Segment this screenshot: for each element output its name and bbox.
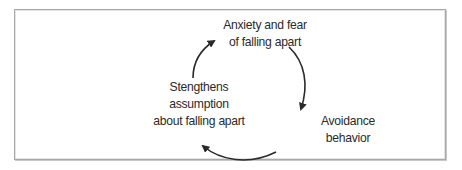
node-anxiety-fear: Anxiety and fear of falling apart: [198, 16, 333, 50]
arrow-right-to-left: [203, 146, 276, 160]
node-strengthens-assumption: Stengthens assumption about falling apar…: [141, 78, 258, 129]
arrow-top-to-right: [289, 47, 305, 109]
node-avoidance-behavior: Avoidance behavior: [303, 112, 393, 146]
